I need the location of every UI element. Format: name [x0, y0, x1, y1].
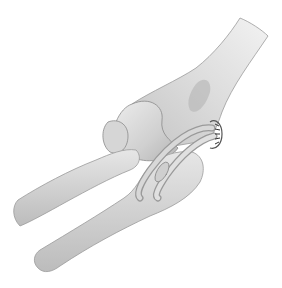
elbow-illustration [0, 0, 282, 288]
illustration-canvas [0, 0, 282, 288]
